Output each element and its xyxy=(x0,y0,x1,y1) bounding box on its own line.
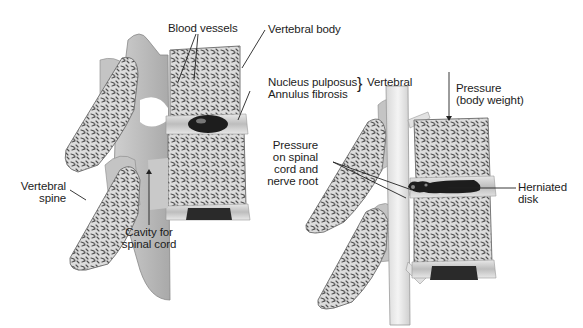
label-blood-vessels: Blood vessels xyxy=(168,22,238,34)
label-herniated-line1: Herniated xyxy=(518,181,567,193)
brace-icon: } xyxy=(357,74,362,94)
label-pressure-cord-line3: cord and xyxy=(260,163,318,175)
label-herniated-line2: disk xyxy=(518,193,538,205)
label-pressure-cord-line2: on spinal xyxy=(260,151,318,163)
label-pressure-line1: Pressure xyxy=(456,82,501,94)
label-cavity-line2: spinal cord xyxy=(114,238,184,250)
label-vertebral-spine-line2: spine xyxy=(16,192,66,204)
left-spine-segment xyxy=(65,34,250,300)
label-pressure-line2: (body weight) xyxy=(456,94,524,106)
right-spine-segment xyxy=(306,86,496,325)
label-pressure-cord-line1: Pressure xyxy=(260,139,318,151)
label-annulus-fibrosis: Annulus fibrosis xyxy=(268,88,348,100)
anatomy-figure: Blood vessels Vertebral body Nucleus pul… xyxy=(0,0,583,328)
label-pressure-cord-line4: nerve root xyxy=(260,175,318,187)
label-nucleus-pulposus: Nucleus pulposus xyxy=(268,76,357,88)
label-vertebral-group: Vertebral xyxy=(367,76,412,88)
label-cavity-line1: Cavity for xyxy=(114,226,184,238)
label-vertebral-spine-line1: Vertebral xyxy=(16,180,66,192)
label-vertebral-body: Vertebral body xyxy=(268,23,341,35)
